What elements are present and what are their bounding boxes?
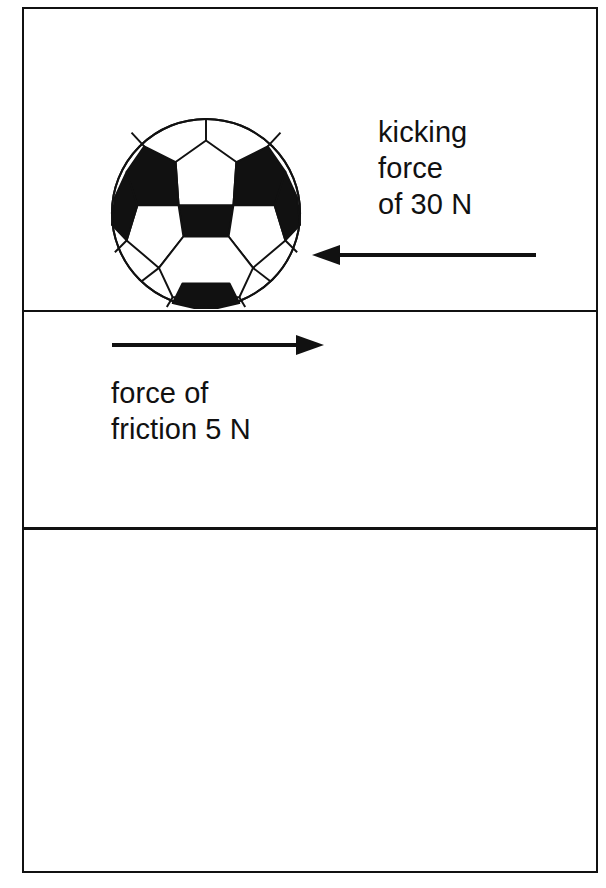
diagram-frame: kicking force of 30 N force of friction …	[22, 7, 598, 873]
arrow-left-icon	[310, 240, 536, 270]
kicking-force-arrow-left	[310, 240, 536, 270]
kicking-force-label: kicking force of 30 N	[378, 114, 472, 222]
middle-work-region	[24, 312, 596, 527]
soccer-ball-graphic	[108, 115, 304, 311]
bottom-work-region	[24, 530, 596, 871]
soccer-ball-icon	[108, 115, 304, 311]
